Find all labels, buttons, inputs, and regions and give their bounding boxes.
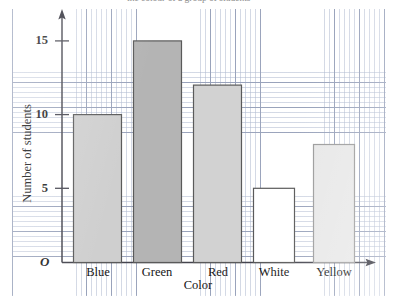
bar-yellow xyxy=(314,145,355,263)
bar-green xyxy=(134,41,182,263)
bar-chart-plot xyxy=(0,0,394,300)
y-axis-title: Number of students xyxy=(20,79,35,229)
chart-title-strip: the colour of a group of students xyxy=(0,0,394,9)
chart-title: the colour of a group of students xyxy=(127,0,250,3)
y-tick-label-0: O xyxy=(40,254,49,270)
y-tick-label-15: 15 xyxy=(12,33,48,48)
bar-blue xyxy=(74,115,122,263)
bar-white xyxy=(254,188,295,262)
bar-red xyxy=(194,85,242,262)
x-category-label-green: Green xyxy=(126,265,188,280)
x-axis-title: Color xyxy=(163,278,233,293)
x-category-label-yellow: Yellow xyxy=(303,265,365,280)
x-category-label-white: White xyxy=(243,265,305,280)
x-category-label-red: Red xyxy=(187,265,249,280)
x-category-label-blue: Blue xyxy=(67,265,129,280)
